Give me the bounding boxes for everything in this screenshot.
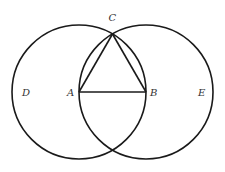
point-label-e: E (197, 87, 206, 98)
diagram-canvas: C A B D E (0, 0, 225, 172)
euclid-equilateral-triangle-construction: C A B D E (0, 0, 225, 172)
point-label-d: D (21, 87, 30, 98)
point-label-a: A (66, 87, 74, 98)
segment-ac (79, 34, 113, 92)
point-label-b: B (149, 87, 157, 98)
point-label-c: C (109, 12, 117, 23)
segment-bc (113, 34, 147, 92)
